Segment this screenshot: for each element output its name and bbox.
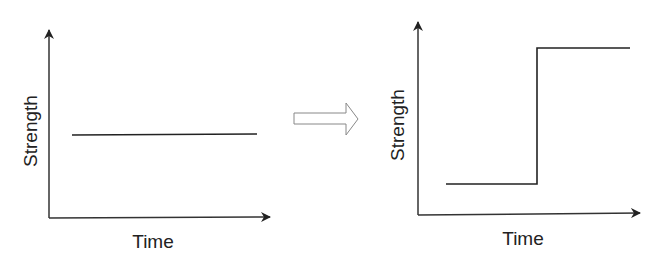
right-y-label: Strength [387, 89, 408, 161]
right-chart: Strength Time [387, 22, 640, 249]
right-x-label: Time [502, 228, 544, 249]
left-y-label: Strength [20, 95, 41, 167]
right-arrow-outline-icon [294, 103, 358, 135]
right-step-line [446, 48, 630, 184]
left-x-axis [49, 217, 270, 218]
left-x-label: Time [132, 231, 174, 252]
diagram-canvas: Strength Time Strength Time [0, 0, 661, 264]
left-constant-line [72, 134, 257, 135]
left-chart: Strength Time [20, 30, 270, 252]
right-x-axis [418, 213, 640, 215]
